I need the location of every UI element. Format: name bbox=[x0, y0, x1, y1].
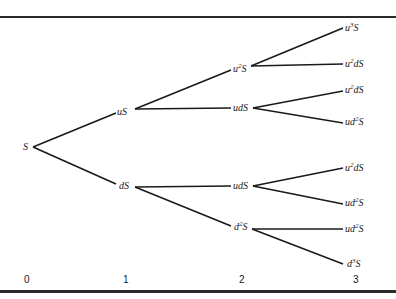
node-udds-1: ud2S bbox=[344, 117, 365, 127]
node-uuds-1: u2dS bbox=[344, 59, 365, 69]
node-uuus: u3S bbox=[344, 23, 360, 33]
edge-uus-uuds bbox=[251, 64, 343, 66]
node-uuds-2: u2dS bbox=[344, 85, 365, 95]
step-label-0: 0 bbox=[24, 274, 30, 285]
node-s: S bbox=[22, 142, 29, 152]
edge-us-uds bbox=[135, 108, 231, 109]
edge-uus-uuus bbox=[251, 28, 343, 66]
node-uds-upper: udS bbox=[232, 103, 249, 113]
binomial-tree-diagram: S uS dS u2S udS udS d2S u3S u2dS u2dS ud… bbox=[0, 0, 396, 299]
edge-uds-uuds bbox=[253, 91, 343, 108]
node-udds-3: ud2S bbox=[344, 224, 365, 234]
node-uuds-3: u2dS bbox=[344, 163, 365, 173]
tree-edges bbox=[0, 0, 396, 299]
node-ds: dS bbox=[118, 181, 130, 191]
step-label-1: 1 bbox=[123, 274, 129, 285]
edge-uds2-uuds bbox=[253, 168, 343, 186]
edge-uds-udds bbox=[253, 108, 343, 123]
node-us: uS bbox=[116, 107, 128, 117]
edge-dds-ddds bbox=[252, 229, 343, 264]
node-udds-2: ud2S bbox=[344, 198, 365, 208]
edge-ds-dds bbox=[135, 187, 231, 226]
node-ddds: d3S bbox=[346, 259, 362, 269]
step-label-2: 2 bbox=[239, 274, 245, 285]
node-dds: d2S bbox=[233, 222, 249, 232]
step-label-3: 3 bbox=[353, 274, 359, 285]
node-uds-lower: udS bbox=[232, 181, 249, 191]
node-uus: u2S bbox=[232, 64, 248, 74]
edge-uds2-udds bbox=[253, 186, 343, 204]
edge-ds-uds bbox=[135, 186, 231, 187]
edge-s-us bbox=[33, 113, 116, 147]
edge-s-ds bbox=[33, 147, 116, 184]
edge-us-uus bbox=[135, 70, 231, 109]
